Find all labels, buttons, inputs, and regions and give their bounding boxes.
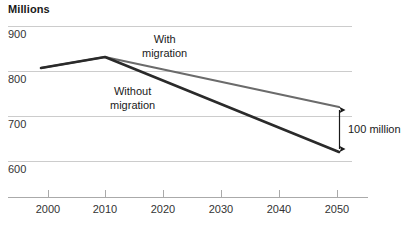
gridlines bbox=[8, 27, 352, 162]
x-axis bbox=[8, 190, 368, 198]
plot-area bbox=[0, 0, 409, 236]
series-line-with-migration bbox=[41, 57, 339, 107]
migration-population-line-chart: Millions 900 800 700 600 2000 2010 2020 … bbox=[0, 0, 409, 236]
